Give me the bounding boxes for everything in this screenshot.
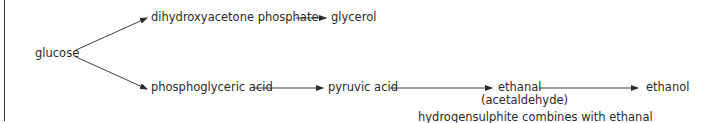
node-phosphoglyceric-acid: phosphoglyceric acid — [151, 81, 273, 94]
annotation-hydrogensulphite: hydrogensulphite combines with ethanal — [418, 111, 653, 123]
node-pyruvic-acid: pyruvic acid — [328, 81, 398, 94]
node-ethanol: ethanol — [646, 81, 689, 94]
arrow-glucose-to-pga — [76, 57, 147, 89]
node-glycerol: glycerol — [331, 11, 376, 24]
node-ethanal-synonym: (acetaldehyde) — [481, 94, 568, 107]
arrow-glucose-to-dhap — [76, 18, 147, 50]
node-dihydroxyacetone-phosphate: dihydroxyacetone phosphate — [151, 11, 319, 24]
node-glucose: glucose — [35, 47, 79, 60]
